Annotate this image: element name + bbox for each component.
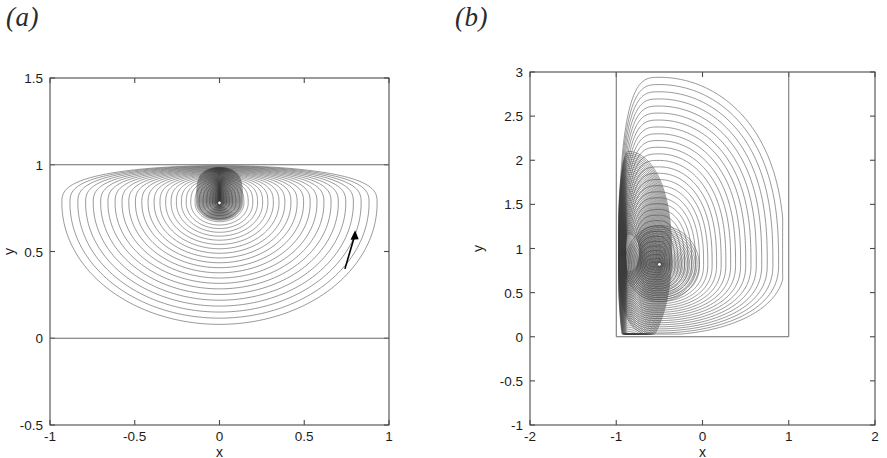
y-tick-label: 1.5 — [504, 197, 523, 212]
x-axis-title: x — [216, 444, 223, 458]
y-tick-label: 0.5 — [24, 245, 43, 260]
y-axis-title: y — [470, 245, 486, 252]
x-tick-label: 1 — [385, 429, 393, 444]
panel-b: (b) -2-1012-1-0.500.511.522.53xy — [443, 0, 887, 458]
panel-b-plot: -2-1012-1-0.500.511.522.53xy — [443, 0, 887, 458]
plot-frame — [50, 78, 389, 425]
y-tick-label: 2.5 — [504, 109, 523, 124]
y-tick-label: 1 — [515, 242, 523, 257]
x-tick-label: 1 — [785, 429, 793, 444]
y-tick-label: 0 — [35, 331, 43, 346]
stagnation-plume — [197, 167, 243, 220]
panel-a-content: -1-0.500.51-0.500.511.5xy — [1, 71, 393, 458]
flow-direction-arrowhead — [351, 230, 359, 240]
x-tick-label: -2 — [524, 429, 536, 444]
y-tick-label: 1.5 — [24, 71, 43, 86]
y-tick-label: 0.5 — [504, 286, 523, 301]
x-tick-label: -1 — [44, 429, 56, 444]
vortex-centre-marker — [657, 262, 661, 266]
y-tick-label: 3 — [515, 65, 523, 80]
panel-b-content: -2-1012-1-0.500.511.522.53xy — [470, 65, 879, 458]
x-tick-label: -0.5 — [123, 429, 146, 444]
y-tick-label: -1 — [511, 418, 523, 433]
vortex-centre-marker — [218, 201, 222, 205]
x-tick-label: 0 — [699, 429, 707, 444]
x-tick-label: 2 — [871, 429, 879, 444]
figure-two-panel-streamlines: (a) -1-0.500.51-0.500.511.5xy (b) -2-101… — [0, 0, 887, 458]
y-tick-label: -0.5 — [500, 374, 523, 389]
x-tick-label: 0 — [216, 429, 224, 444]
y-tick-label: 2 — [515, 153, 523, 168]
panel-a-plot: -1-0.500.51-0.500.511.5xy — [0, 0, 443, 458]
x-tick-label: 0.5 — [295, 429, 314, 444]
y-tick-label: -0.5 — [20, 418, 43, 433]
y-tick-label: 1 — [35, 158, 43, 173]
y-tick-label: 0 — [515, 330, 523, 345]
plot-frame — [530, 72, 875, 425]
y-axis-title: y — [1, 248, 17, 255]
x-tick-label: -1 — [610, 429, 622, 444]
panel-a: (a) -1-0.500.51-0.500.511.5xy — [0, 0, 443, 458]
x-axis-title: x — [699, 444, 706, 458]
